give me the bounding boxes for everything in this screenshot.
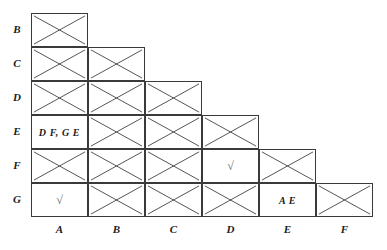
matrix-cell-d-a[interactable] xyxy=(31,81,88,115)
relationship-matrix: BCDEFGABCDEFD F, G E√√A E xyxy=(0,0,387,250)
column-label-a: A xyxy=(31,224,88,235)
cross-out-icon xyxy=(89,184,144,216)
matrix-cell-c-a[interactable] xyxy=(31,47,88,81)
cross-out-icon xyxy=(146,184,201,216)
matrix-cell-e-c[interactable] xyxy=(145,115,202,149)
cross-out-icon xyxy=(89,82,144,114)
cross-out-icon xyxy=(32,82,87,114)
column-label-e: E xyxy=(259,224,316,235)
cross-out-icon xyxy=(317,184,372,216)
check-mark-icon: √ xyxy=(32,184,87,216)
matrix-cell-text: D F, G E xyxy=(32,116,87,148)
row-label-f: F xyxy=(9,160,25,171)
column-label-d: D xyxy=(202,224,259,235)
matrix-cell-g-b[interactable] xyxy=(88,183,145,217)
matrix-cell-e-d[interactable] xyxy=(202,115,259,149)
matrix-cell-g-e[interactable]: A E xyxy=(259,183,316,217)
matrix-cell-text: A E xyxy=(260,184,315,216)
matrix-cell-g-a[interactable]: √ xyxy=(31,183,88,217)
cross-out-icon xyxy=(260,150,315,182)
matrix-cell-f-b[interactable] xyxy=(88,149,145,183)
matrix-cell-e-a[interactable]: D F, G E xyxy=(31,115,88,149)
cross-out-icon xyxy=(89,116,144,148)
cross-out-icon xyxy=(32,48,87,80)
cross-out-icon xyxy=(32,150,87,182)
row-label-e: E xyxy=(9,126,25,137)
column-label-f: F xyxy=(316,224,373,235)
check-mark-icon: √ xyxy=(203,150,258,182)
matrix-cell-f-c[interactable] xyxy=(145,149,202,183)
matrix-cell-g-c[interactable] xyxy=(145,183,202,217)
matrix-cell-g-d[interactable] xyxy=(202,183,259,217)
matrix-cell-f-a[interactable] xyxy=(31,149,88,183)
matrix-cell-f-e[interactable] xyxy=(259,149,316,183)
row-label-g: G xyxy=(9,194,25,205)
row-label-d: D xyxy=(9,92,25,103)
row-label-b: B xyxy=(9,24,25,35)
cross-out-icon xyxy=(146,150,201,182)
matrix-cell-g-f[interactable] xyxy=(316,183,373,217)
cross-out-icon xyxy=(203,184,258,216)
column-label-b: B xyxy=(88,224,145,235)
cross-out-icon xyxy=(89,48,144,80)
matrix-cell-e-b[interactable] xyxy=(88,115,145,149)
matrix-cell-f-d[interactable]: √ xyxy=(202,149,259,183)
cross-out-icon xyxy=(203,116,258,148)
matrix-cell-d-c[interactable] xyxy=(145,81,202,115)
matrix-cell-d-b[interactable] xyxy=(88,81,145,115)
cross-out-icon xyxy=(32,14,87,46)
cross-out-icon xyxy=(146,82,201,114)
column-label-c: C xyxy=(145,224,202,235)
matrix-cell-b-a[interactable] xyxy=(31,13,88,47)
row-label-c: C xyxy=(9,58,25,69)
cross-out-icon xyxy=(89,150,144,182)
matrix-cell-c-b[interactable] xyxy=(88,47,145,81)
cross-out-icon xyxy=(146,116,201,148)
